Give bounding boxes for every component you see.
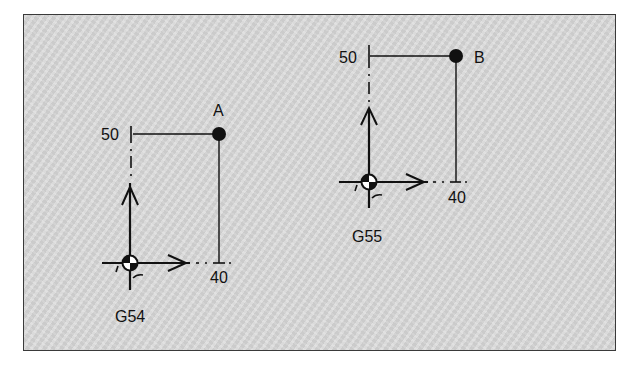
coordinate-system-g54 xyxy=(102,126,231,290)
point-a-icon xyxy=(212,127,226,141)
point-label-a: A xyxy=(213,102,224,119)
point-label-b: B xyxy=(474,49,485,66)
diagram-canvas: A 50 40 G54 B 50 40 G55 xyxy=(0,0,630,365)
x-value-label-g55: 40 xyxy=(448,189,466,206)
point-b-icon xyxy=(449,49,463,63)
origin-symbol-icon xyxy=(362,175,377,190)
coordinate-system-g55 xyxy=(339,45,467,208)
origin-label-g55: G55 xyxy=(352,228,382,245)
origin-label-g54: G54 xyxy=(115,308,145,325)
x-value-label-g54: 40 xyxy=(210,269,228,286)
y-value-label-g54: 50 xyxy=(101,126,119,143)
y-value-label-g55: 50 xyxy=(339,49,357,66)
origin-symbol-icon xyxy=(123,256,138,271)
